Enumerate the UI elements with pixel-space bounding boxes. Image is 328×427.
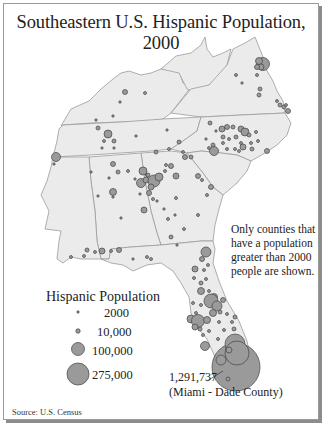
map-frame: Southeastern U.S. Hispanic Population, 2… [3, 3, 319, 420]
callout-label: (Miami - Dade County) [169, 385, 283, 400]
legend-label: 10,000 [97, 325, 131, 340]
legend-item-10000: 10,000 [59, 325, 169, 345]
miami-dade-callout: 1,291,737 (Miami - Dade County) [169, 370, 283, 400]
map-note: Only counties that have a population gre… [231, 222, 321, 278]
legend-item-100000: 100,000 [59, 344, 169, 364]
source-credit: Source: U.S. Census [12, 407, 82, 417]
legend-label: 2000 [104, 306, 129, 321]
callout-value: 1,291,737 [169, 370, 283, 385]
legend-label: 275,000 [92, 368, 133, 383]
legend-label: 100,000 [92, 344, 133, 359]
legend-item-275000: 275,000 [59, 368, 169, 388]
legend-item-2000: 2000 [59, 306, 169, 326]
legend-title: Hispanic Population [46, 289, 160, 305]
